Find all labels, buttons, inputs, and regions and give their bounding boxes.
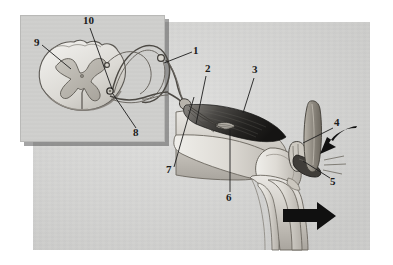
motor-neuron-nucleus <box>109 90 112 93</box>
dorsal-root-ganglion <box>158 55 165 62</box>
illustration-artwork <box>0 0 393 265</box>
hammer-strike-arrow <box>320 126 357 154</box>
label-9: 9 <box>34 37 40 48</box>
label-6: 6 <box>226 192 232 203</box>
label-4: 4 <box>334 117 340 128</box>
label-2: 2 <box>205 63 211 74</box>
interneuron-cell-body <box>105 63 110 68</box>
leader-line-3 <box>243 78 254 113</box>
label-7: 7 <box>166 164 172 175</box>
label-5: 5 <box>330 176 336 187</box>
label-3: 3 <box>252 64 258 75</box>
label-1: 1 <box>193 45 199 56</box>
central-canal <box>80 74 83 77</box>
spinal-cord-group <box>39 40 191 110</box>
leader-line-1 <box>164 52 192 63</box>
anatomy-figure: 1 2 3 4 5 6 7 8 9 10 <box>0 0 393 265</box>
label-10: 10 <box>83 15 94 26</box>
impact-motion-lines <box>323 156 346 174</box>
label-8: 8 <box>133 127 139 138</box>
